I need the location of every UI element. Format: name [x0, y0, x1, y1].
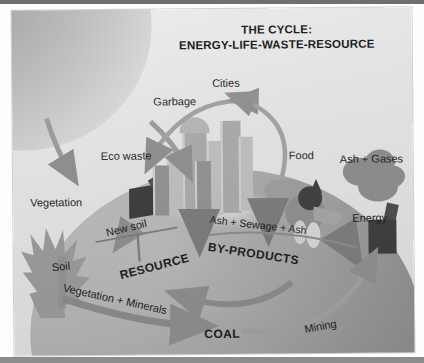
label-food: Food	[289, 149, 314, 161]
scan-edge-top	[0, 0, 424, 4]
label-ash-gases: Ash + Gases	[340, 152, 403, 165]
arrow-food-to-cities	[240, 98, 285, 180]
arrow-byproducts-to-resource	[186, 282, 292, 304]
title-line-1: THE CYCLE:	[241, 23, 312, 36]
label-eco-waste: Eco waste	[101, 150, 152, 162]
page-title: THE CYCLE: ENERGY-LIFE-WASTE-RESOURCE	[162, 21, 392, 53]
label-garbage: Garbage	[153, 95, 196, 107]
connector-newsoil-resource	[137, 234, 139, 262]
label-energy: Energy	[352, 211, 387, 223]
label-soil: Soil	[51, 259, 70, 273]
label-cities: Cities	[212, 77, 240, 89]
screenshot-frame: THE CYCLE: ENERGY-LIFE-WASTE-RESOURCE Ve…	[0, 0, 424, 363]
arrow-garbage-down	[153, 145, 159, 157]
arrow-sun-to-vegetation	[46, 118, 68, 170]
diagram-plate: THE CYCLE: ENERGY-LIFE-WASTE-RESOURCE Ve…	[12, 7, 415, 355]
title-line-2: ENERGY-LIFE-WASTE-RESOURCE	[179, 38, 375, 52]
flow-arrows	[12, 7, 415, 355]
arrow-sun-to-ecowaste	[150, 121, 184, 165]
scan-edge-bottom	[0, 357, 424, 363]
label-vegetation: Vegetation	[30, 196, 82, 208]
label-coal: COAL	[204, 327, 240, 341]
